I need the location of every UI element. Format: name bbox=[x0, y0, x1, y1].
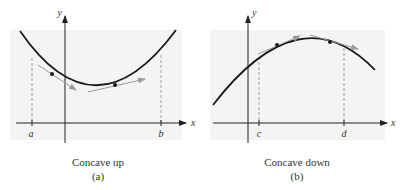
caption-a-label: (a) bbox=[38, 169, 158, 183]
tangent-point-2 bbox=[113, 83, 117, 87]
tangent-point-2 bbox=[328, 40, 332, 44]
caption-a: Concave up (a) bbox=[38, 155, 158, 183]
caption-b: Concave down (b) bbox=[237, 155, 357, 183]
y-axis-label: y bbox=[57, 7, 63, 18]
y-axis-label: y bbox=[251, 7, 257, 18]
concavity-figure: y x a b y x bbox=[0, 0, 405, 190]
x-axis-label: x bbox=[190, 117, 196, 128]
panel-b: y x c d bbox=[210, 7, 396, 143]
x-axis-label: x bbox=[390, 117, 396, 128]
caption-a-title: Concave up bbox=[72, 156, 124, 168]
tick-label-b: b bbox=[159, 128, 164, 139]
tangent-point-1 bbox=[275, 43, 279, 47]
tick-label-a: a bbox=[29, 128, 34, 139]
tick-label-c: c bbox=[257, 128, 262, 139]
tangent-point-1 bbox=[50, 72, 54, 76]
panel-a: y x a b bbox=[10, 7, 196, 143]
caption-b-label: (b) bbox=[237, 169, 357, 183]
caption-b-title: Concave down bbox=[264, 156, 330, 168]
